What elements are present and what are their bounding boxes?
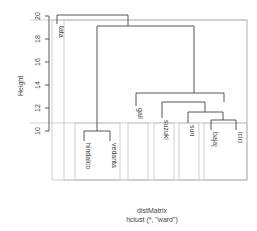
- cluster-rect-gail: [128, 123, 148, 180]
- leaf-suzuki: suzuki: [163, 120, 170, 140]
- y-tick-18: 18: [34, 35, 41, 43]
- y-tick-16: 16: [34, 58, 41, 66]
- leaf-bajaj: bajaj: [211, 132, 219, 147]
- leaf-gail: gail: [136, 108, 144, 119]
- y-tick-labels: 20 18 16 14 12 10: [34, 12, 41, 135]
- cluster-rect-outer: [52, 20, 247, 180]
- leaf-labels: tata hindalco vedanta gail suzuki sun ba…: [58, 26, 244, 169]
- y-axis-label: Height: [17, 76, 25, 96]
- leaf-sun: sun: [189, 125, 196, 136]
- leaf-hindalco: hindalco: [85, 143, 92, 169]
- leaf-tata: tata: [58, 26, 65, 38]
- x-axis-label: distMatrix: [137, 207, 167, 214]
- y-tick-12: 12: [34, 104, 41, 112]
- leaf-vedanta: vedanta: [111, 143, 118, 168]
- leaf-icici: icici: [237, 132, 244, 144]
- x-axis-sublabel: hclust (*, "ward"): [126, 216, 178, 224]
- y-axis: [45, 16, 49, 131]
- cluster-rectangles: [30, 20, 247, 180]
- y-tick-14: 14: [34, 81, 41, 89]
- y-tick-20: 20: [34, 12, 41, 20]
- dendrogram-plot: 20 18 16 14 12 10 Height tata hindalco v…: [0, 0, 257, 231]
- dendrogram-tree: [57, 15, 236, 141]
- y-tick-10: 10: [34, 127, 41, 135]
